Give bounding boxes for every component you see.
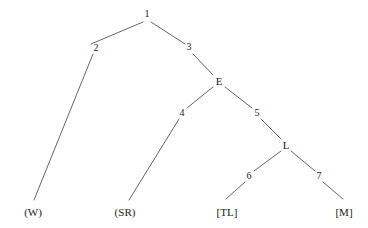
node-label-l: L	[283, 140, 290, 151]
node-label-4: 4	[180, 108, 185, 118]
tree-edge-5-to-L	[261, 119, 281, 139]
tree-edge-7-to-M	[323, 182, 343, 199]
tree-edge-6-to-TL	[226, 182, 245, 199]
node-label-e: E	[216, 76, 223, 87]
tree-edge-4-to-SR	[129, 119, 179, 200]
tree-edge-root-to-3	[151, 22, 185, 44]
node-label-7: 7	[317, 171, 322, 181]
tree-edge-L-to-6	[254, 151, 281, 171]
tree-edge-L-to-7	[291, 151, 315, 171]
node-label-root-1: 1	[145, 9, 150, 19]
tree-edge-root-to-2	[91, 22, 143, 44]
node-label-5: 5	[255, 108, 260, 118]
tree-edge-2-to-W	[34, 54, 93, 200]
leaf-label-m: [M]	[335, 207, 352, 218]
leaf-label-sr: (SR)	[115, 207, 136, 218]
leaf-label-w: (W)	[24, 207, 42, 218]
tree-diagram-canvas: 1 2 3 E 4 5 L 6 7 (W) (SR) [TL] [M]	[0, 0, 368, 228]
leaf-label-tl: [TL]	[217, 207, 238, 218]
node-label-6: 6	[247, 171, 252, 181]
node-label-2: 2	[94, 43, 99, 53]
node-label-3: 3	[187, 42, 192, 52]
tree-edge-E-to-4	[187, 87, 213, 108]
tree-edge-E-to-5	[225, 87, 252, 108]
tree-edge-3-to-E	[193, 54, 213, 75]
